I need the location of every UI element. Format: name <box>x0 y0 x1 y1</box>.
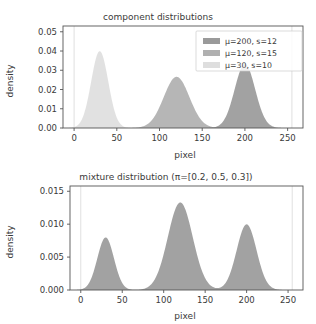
x-axis-label-top: pixel <box>174 150 195 160</box>
x-tick-label: 50 <box>111 133 122 143</box>
x-tick-label: 200 <box>238 295 254 305</box>
plot-area-bottom: 0501001502002500.0000.0050.0100.015 <box>40 186 303 305</box>
x-tick-label: 150 <box>197 295 213 305</box>
legend-top[interactable]: μ=200, s=12μ=120, s=15μ=30, s=10 <box>196 31 302 71</box>
y-tick-label: 0.02 <box>38 85 57 95</box>
x-axis-label-bottom: pixel <box>174 311 195 321</box>
y-tick-label: 0.04 <box>38 46 57 56</box>
mixture-distribution-svg: mixture distribution (π=[0.2, 0.5, 0.3])… <box>0 162 316 324</box>
chart-title-top: component distributions <box>103 12 213 22</box>
x-tick-label: 250 <box>280 133 296 143</box>
chart-panel-mixture-distribution: mixture distribution (π=[0.2, 0.5, 0.3])… <box>0 162 316 324</box>
y-tick-label: 0.015 <box>40 186 64 196</box>
mixture-curve <box>70 202 303 290</box>
y-tick-label: 0.00 <box>38 123 57 133</box>
y-tick-label: 0.03 <box>38 65 57 75</box>
legend-label: μ=200, s=12 <box>225 37 277 46</box>
y-tick-label: 0.010 <box>40 219 64 229</box>
legend-swatch <box>203 38 220 44</box>
y-axis-label-bottom: density <box>5 225 15 259</box>
legend-swatch <box>203 62 220 68</box>
y-tick-label: 0.01 <box>38 104 57 114</box>
x-tick-label: 0 <box>78 295 83 305</box>
component-distributions-svg: component distributions 0501001502002500… <box>0 0 316 162</box>
x-tick-label: 50 <box>117 295 128 305</box>
chart-panel-component-distributions: component distributions 0501001502002500… <box>0 0 316 162</box>
x-tick-label: 150 <box>194 133 210 143</box>
x-tick-label: 0 <box>71 133 76 143</box>
legend-label: μ=120, s=15 <box>225 49 277 58</box>
y-tick-label: 0.000 <box>40 285 64 295</box>
chart-title-bottom: mixture distribution (π=[0.2, 0.5, 0.3]) <box>79 172 252 182</box>
x-tick-label: 100 <box>156 295 172 305</box>
legend-swatch <box>203 50 220 56</box>
y-axis-label-top: density <box>5 64 15 98</box>
x-tick-label: 200 <box>237 133 253 143</box>
x-tick-label: 100 <box>151 133 167 143</box>
y-tick-label: 0.05 <box>38 27 57 37</box>
y-tick-label: 0.005 <box>40 252 64 262</box>
figure-canvas: component distributions 0501001502002500… <box>0 0 316 324</box>
x-tick-label: 250 <box>280 295 296 305</box>
legend-label: μ=30, s=10 <box>225 61 272 70</box>
